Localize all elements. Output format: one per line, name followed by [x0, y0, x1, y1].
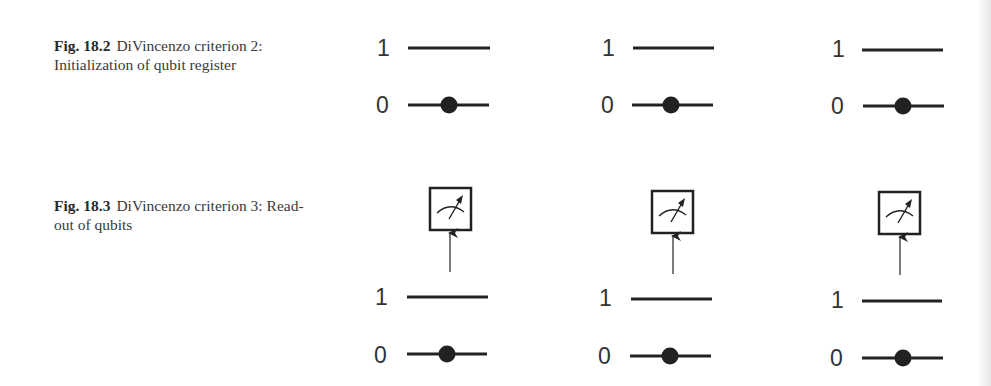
fig-18-2-register-2: 1 0 [601, 35, 714, 118]
level-1-label: 1 [375, 284, 388, 310]
level-0-label: 0 [598, 343, 611, 369]
fig-18-3-register-2: 1 0 [598, 191, 712, 369]
level-0-label: 0 [376, 92, 389, 118]
level-0-label: 0 [830, 345, 843, 371]
level-1-label: 1 [831, 287, 844, 313]
qubit-state-dot [441, 97, 458, 114]
fig-18-3-register-1: 1 0 [374, 188, 488, 368]
level-1-label: 1 [832, 36, 845, 62]
qubit-state-dot [663, 97, 680, 114]
level-0-label: 0 [831, 93, 844, 119]
meter-icon [430, 188, 471, 230]
meter-icon [879, 192, 920, 234]
fig-18-2-register-1: 1 0 [376, 35, 490, 118]
level-1-label: 1 [377, 35, 390, 61]
level-1-label: 1 [599, 285, 612, 311]
page-edge-shadow [977, 0, 991, 386]
qubit-state-dot [439, 346, 456, 363]
qubit-state-dot [895, 350, 912, 367]
fig-18-3-register-3: 1 0 [830, 192, 943, 371]
qubit-diagrams: 1 0 1 0 1 0 1 0 1 0 [0, 0, 991, 386]
level-1-label: 1 [602, 35, 615, 61]
level-0-label: 0 [374, 342, 387, 368]
meter-icon [652, 191, 693, 233]
qubit-state-dot [895, 98, 912, 115]
fig-18-2-register-3: 1 0 [831, 36, 944, 119]
qubit-state-dot [662, 348, 679, 365]
level-0-label: 0 [601, 92, 614, 118]
